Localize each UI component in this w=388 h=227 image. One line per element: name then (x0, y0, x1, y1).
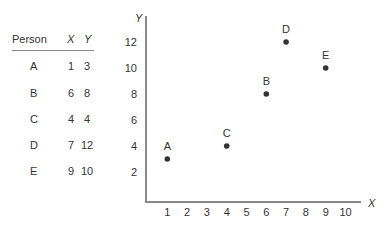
point-label: E (322, 49, 329, 61)
x-tick-labels: 12345678910 (164, 206, 351, 218)
x-tick-label: 8 (303, 206, 309, 218)
y-tick-label: 2 (131, 166, 137, 178)
x-tick-label: 5 (243, 206, 249, 218)
x-tick-label: 2 (184, 206, 190, 218)
y-axis-label: Y (135, 12, 143, 24)
y-tick-labels: 24681012 (125, 36, 137, 178)
point-label: B (263, 75, 270, 87)
point-label: A (164, 140, 172, 152)
x-tick-label: 4 (224, 206, 230, 218)
x-tick-label: 1 (164, 206, 170, 218)
data-point (224, 143, 230, 149)
point-label: D (282, 23, 290, 35)
data-point (165, 156, 171, 162)
y-tick-label: 4 (131, 140, 137, 152)
data-point (264, 91, 270, 97)
data-points: ABCDE (164, 23, 330, 162)
x-axis-label: X (367, 197, 376, 209)
x-tick-label: 9 (323, 206, 329, 218)
x-tick-label: 10 (339, 206, 351, 218)
scatter-plot: Y X 24681012 12345678910 ABCDE (0, 0, 388, 227)
x-tick-label: 7 (283, 206, 289, 218)
y-tick-label: 6 (131, 114, 137, 126)
y-tick-label: 10 (125, 62, 137, 74)
x-tick-label: 6 (263, 206, 269, 218)
y-tick-label: 12 (125, 36, 137, 48)
data-point (323, 65, 329, 71)
point-label: C (223, 127, 231, 139)
data-point (283, 39, 289, 45)
y-tick-label: 8 (131, 88, 137, 100)
x-tick-label: 3 (204, 206, 210, 218)
